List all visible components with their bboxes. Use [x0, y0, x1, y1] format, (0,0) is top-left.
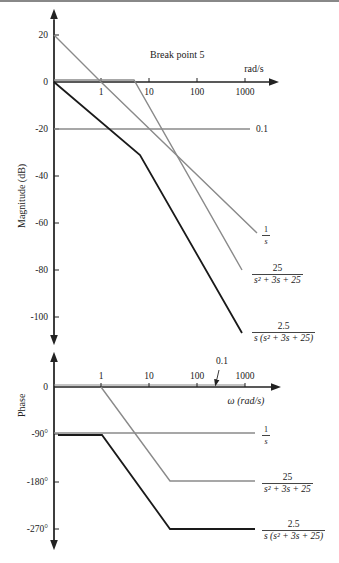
- phase-ytick-neg180: -180°: [27, 477, 48, 487]
- phase-ytick-neg270: -270°: [27, 524, 48, 534]
- phase-xtick-1000: 1000: [236, 371, 255, 381]
- phase-xtick-1: 1: [99, 371, 104, 381]
- phase-series-total: [58, 435, 255, 529]
- phase-ytick-neg90: -90°: [32, 429, 49, 439]
- mag-ytick-20: 20: [39, 30, 49, 40]
- mag-xtick-1000: 1000: [236, 87, 255, 97]
- mag-series-quadratic: [54, 80, 242, 270]
- annotation-pointer-arrow: [216, 370, 219, 383]
- phase-y-label: Phase: [16, 394, 27, 417]
- mag-ytick-0: 0: [43, 77, 48, 87]
- mag-label-integrator: 1 s: [262, 224, 270, 247]
- mag-series-total: [54, 82, 242, 333]
- mag-label-constant: 0.1: [256, 124, 268, 134]
- phase-label-total: 2.5 s (s² + 3s + 25): [262, 519, 325, 542]
- mag-ytick-neg60: -60: [35, 218, 48, 228]
- phase-xtick-100: 100: [190, 371, 205, 381]
- mag-ytick-neg20: -20: [35, 124, 48, 134]
- phase-ytick-0: 0: [43, 382, 48, 392]
- phase-label-quadratic: 25 s² + 3s + 25: [262, 472, 313, 495]
- mag-ytick-neg100: -100: [31, 312, 49, 322]
- phase-x-unit: ω (rad/s): [228, 395, 265, 407]
- mag-x-unit: rad/s: [244, 63, 264, 74]
- phase-xtick-10: 10: [144, 371, 154, 381]
- mag-label-quadratic: 25 s² + 3s + 25: [252, 263, 303, 286]
- mag-xtick-100: 100: [190, 87, 205, 97]
- break-point-annotation: Break point 5: [150, 49, 204, 60]
- magnitude-y-label: Magnitude (dB): [16, 164, 27, 228]
- mag-ytick-neg80: -80: [35, 265, 48, 275]
- phase-plot: 0 -90° -180° -270° 1 10 100 1000 ω (rad/…: [27, 356, 276, 545]
- magnitude-plot: 20 0 -20 -40 -60 -80 -100 1 10 100 1000 …: [31, 14, 274, 340]
- phase-annotation-constant: 0.1: [216, 356, 228, 366]
- mag-xtick-1: 1: [99, 87, 104, 97]
- mag-label-total: 2.5 s (s² + 3s + 25): [252, 321, 315, 344]
- mag-series-integrator: [54, 35, 257, 233]
- phase-label-integrator: 1 s: [262, 424, 270, 447]
- mag-ytick-neg40: -40: [35, 171, 48, 181]
- mag-xtick-10: 10: [144, 87, 154, 97]
